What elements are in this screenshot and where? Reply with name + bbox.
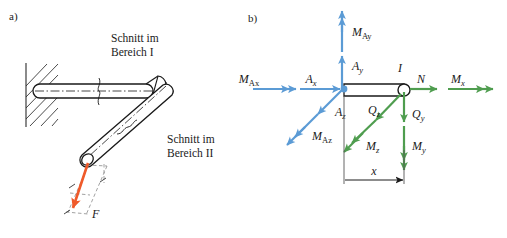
cut-rod-body (344, 84, 404, 96)
label-Q-z: Qz (368, 103, 381, 119)
dimension-x-label: x (370, 164, 377, 178)
caption-bereich-I-line1: Schnitt im (111, 32, 159, 44)
label-M-z: Mz (365, 139, 380, 155)
node-I-label: I (397, 61, 403, 75)
label-M-x: Mx (450, 72, 465, 88)
label-M-Ax: MAx (238, 72, 260, 88)
figure-root: a) (0, 0, 507, 238)
panel-a: a) (9, 10, 215, 221)
caption-bereich-II-line2: Bereich II (167, 147, 213, 159)
label-M-Ay: MAy (351, 25, 372, 41)
label-A-z: Az (334, 105, 346, 121)
caption-bereich-II-line1: Schnitt im (167, 133, 215, 145)
force-arrow-F (73, 163, 88, 208)
label-M-Az: MAz (311, 129, 332, 145)
label-Q-y: Qy (412, 107, 425, 123)
label-A-y: Ay (351, 59, 363, 75)
node-A-marker (341, 86, 348, 93)
label-M-y: My (411, 139, 426, 155)
label-A-x: Ax (304, 72, 316, 88)
figure-canvas: a) (0, 0, 507, 238)
label-N: N (416, 72, 426, 86)
panel-a-tag: a) (9, 10, 18, 23)
panel-b-tag: b) (248, 12, 258, 25)
caption-bereich-I-line2: Bereich I (111, 46, 154, 58)
panel-b: b) MAx Ax Ay MAy (238, 11, 493, 184)
force-label-F: F (91, 207, 100, 221)
